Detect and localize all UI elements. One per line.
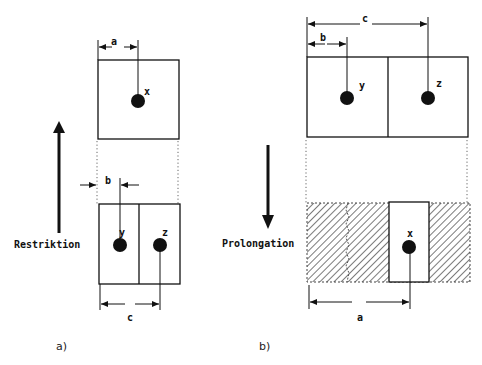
dimension-b-label: b <box>320 32 326 43</box>
panel-a: a x b y z c <box>14 36 180 353</box>
point-y-label: y <box>119 227 125 238</box>
point-z-label: z <box>436 78 442 89</box>
figure-canvas: a x b y z c <box>0 0 482 365</box>
dimension-b: b <box>308 32 347 98</box>
point-y <box>340 91 354 105</box>
dimension-c-label: c <box>362 13 368 24</box>
prolongation-arrow-icon <box>262 145 274 229</box>
restriction-label: Restriktion <box>14 239 80 250</box>
point-x-label: x <box>144 86 150 97</box>
dimension-b-label: b <box>105 175 111 186</box>
point-z <box>421 91 435 105</box>
dimension-b: b <box>80 175 139 245</box>
point-y <box>113 238 127 252</box>
dimension-a: a <box>98 36 138 101</box>
dimension-a-label: a <box>357 312 363 323</box>
point-x <box>402 240 416 254</box>
panel-a-caption: a) <box>56 340 67 353</box>
point-x <box>131 94 145 108</box>
panel-b: c b y z x a <box>222 13 470 353</box>
point-x-label: x <box>407 228 413 239</box>
point-z-label: z <box>162 227 168 238</box>
dimension-c-label: c <box>127 312 133 323</box>
restriction-arrow-icon <box>53 121 65 233</box>
point-y-label: y <box>359 80 365 91</box>
dimension-a-label: a <box>111 36 117 47</box>
dimension-c: c <box>307 13 428 98</box>
panel-b-caption: b) <box>259 340 270 353</box>
prolongation-label: Prolongation <box>222 238 294 249</box>
